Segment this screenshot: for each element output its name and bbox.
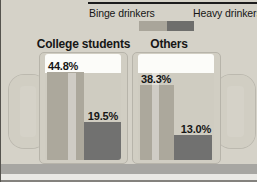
mug-others: 38.3% 13.0%	[132, 52, 221, 164]
group-title-others: Others	[132, 37, 206, 51]
bar-label-heavy-college: 19.5%	[76, 109, 121, 123]
shelf-strip	[1, 164, 257, 174]
mug-handle-right	[216, 75, 255, 148]
legend-top-rule	[88, 2, 257, 4]
legend-swatch-heavy	[167, 21, 194, 31]
beer-mug-chart: Binge drinkers Heavy drinkers College st…	[0, 0, 257, 182]
legend-swatch-binge	[139, 21, 167, 31]
mug-interior: 44.8% 19.5%	[45, 54, 121, 160]
legend-label-binge: Binge drinkers	[89, 7, 155, 19]
bar-label-binge-others: 38.3%	[140, 72, 171, 86]
bar-heavy-college	[84, 122, 121, 160]
mug-headspace	[138, 54, 214, 73]
bar-heavy-others	[174, 135, 212, 161]
glass-highlight	[152, 73, 159, 160]
mug-interior: 38.3% 13.0%	[138, 54, 214, 160]
legend-label-heavy: Heavy drinkers	[193, 7, 257, 19]
bar-label-binge-college: 44.8%	[47, 59, 78, 73]
group-title-college-students: College students	[31, 37, 136, 51]
floor-strip	[1, 174, 257, 182]
glass-highlight	[68, 73, 76, 160]
mug-college-students: 44.8% 19.5%	[39, 52, 128, 164]
bar-label-heavy-others: 13.0%	[169, 122, 214, 136]
